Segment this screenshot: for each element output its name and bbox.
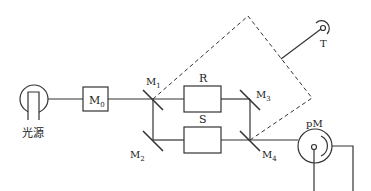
rotor-label: T: [320, 38, 327, 49]
rotation-arrow-icon: [316, 21, 329, 34]
sample-cell-label: S: [199, 113, 207, 126]
m4-label: M4: [262, 149, 277, 163]
rotating-linkage-dashed: [153, 16, 312, 140]
photomultiplier-icon: [298, 129, 332, 163]
pm-lead-2: [332, 146, 353, 191]
sample-cell-box: [184, 127, 221, 153]
reference-cell-box: [184, 86, 221, 112]
light-source-label: 光源: [22, 126, 44, 140]
photomultiplier-label: pM: [306, 118, 323, 129]
m3-label: M3: [256, 89, 271, 103]
optical-diagram: 光源 M0 M1 M2 M3 M4 R S T pM: [0, 0, 371, 191]
rotor-pivot-icon: [321, 26, 326, 31]
m2-label: M2: [130, 149, 145, 163]
rotor-arm: [281, 29, 321, 59]
m1-label: M1: [146, 76, 161, 90]
light-source-icon: [20, 85, 48, 120]
reference-cell-label: R: [199, 72, 208, 85]
